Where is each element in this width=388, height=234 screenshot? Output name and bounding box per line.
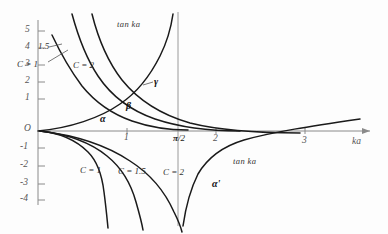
curve-label-tan-ka-upper: tan ka <box>117 20 140 29</box>
pi-divisor: /2 <box>178 133 185 143</box>
curve-c1-upper <box>52 35 188 130</box>
leader-c15-upper <box>49 44 62 47</box>
x-axis-arrowhead <box>362 128 370 134</box>
figure-tan-ka-plot: 5 4 3 2 1 O -1 -2 -3 -4 1 2 3 π/2 ka tan… <box>0 0 388 234</box>
x-axis-title: ka <box>352 137 361 147</box>
curve-label-c1-lower: C = 1 <box>80 166 101 175</box>
curve-label-c15-upper: 1.5 <box>38 42 49 51</box>
y-tick-label-neg4: -4 <box>20 194 28 204</box>
curve-label-c2-upper: C = 2 <box>73 61 94 70</box>
y-tick-label-1: 1 <box>25 93 30 103</box>
origin-label: O <box>24 124 31 134</box>
y-tick-label-5: 5 <box>25 25 30 35</box>
intersection-label-gamma: γ <box>154 77 158 87</box>
x-tick-label-1: 1 <box>124 133 129 143</box>
y-tick-label-2: 2 <box>25 76 30 86</box>
curve-c1-lower <box>40 131 108 228</box>
intersection-label-beta: β <box>126 101 131 111</box>
y-tick-label-4: 4 <box>25 42 30 52</box>
x-tick-label-pi-over-2: π/2 <box>173 134 185 143</box>
curve-label-c15-lower: C = 1.5 <box>118 167 146 176</box>
leader-gamma <box>143 82 153 85</box>
curve-c2-lower <box>40 131 182 232</box>
x-tick-label-3: 3 <box>302 136 307 146</box>
curve-tan-ka-branch2 <box>183 119 360 226</box>
curve-label-c1-upper: C = 1 <box>17 60 38 69</box>
curve-c2-upper <box>92 14 300 133</box>
x-tick-label-2: 2 <box>213 134 218 144</box>
plot-canvas <box>0 0 388 234</box>
curve-label-c2-lower: C = 2 <box>163 168 184 177</box>
intersection-label-alpha: α <box>100 114 106 124</box>
y-tick-label-neg1: -1 <box>20 142 28 152</box>
y-tick-label-neg3: -3 <box>20 178 28 188</box>
intersection-label-alpha-prime: α' <box>212 179 220 189</box>
y-tick-label-neg2: -2 <box>20 160 28 170</box>
curve-label-tan-ka-lower: tan ka <box>233 157 256 166</box>
curve-c15-lower <box>40 131 143 230</box>
